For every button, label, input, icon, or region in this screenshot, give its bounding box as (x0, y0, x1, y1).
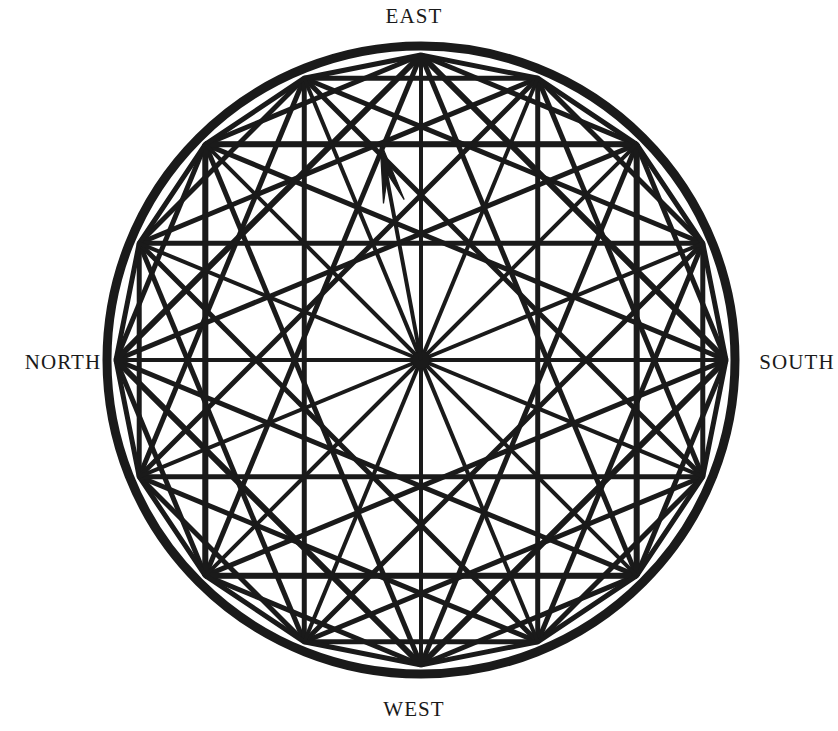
spoke-line (205, 360, 421, 576)
cardinal-label-east: EAST (0, 4, 828, 29)
spoke-line (421, 360, 637, 576)
cardinal-label-south: SOUTH (742, 350, 838, 375)
spoke-line (421, 144, 637, 360)
cardinal-label-north: NORTH (8, 350, 118, 375)
cardinal-label-west: WEST (0, 697, 828, 722)
